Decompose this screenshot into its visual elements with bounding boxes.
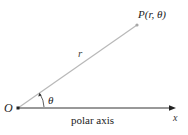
polar-axis-label: polar axis <box>71 114 114 126</box>
angle-arc <box>40 94 44 107</box>
angle-label: θ <box>48 94 54 106</box>
radius-label: r <box>78 47 83 59</box>
arrow-right-icon <box>169 105 176 111</box>
origin-label: O <box>4 101 13 115</box>
radius-ray <box>18 25 137 108</box>
origin-marker <box>17 107 20 110</box>
point-label: P(r, θ) <box>137 8 166 21</box>
x-axis-label: x <box>172 112 178 123</box>
point-p-marker <box>135 23 138 26</box>
polar-coordinates-diagram: O P(r, θ) r θ polar axis x <box>0 0 188 135</box>
